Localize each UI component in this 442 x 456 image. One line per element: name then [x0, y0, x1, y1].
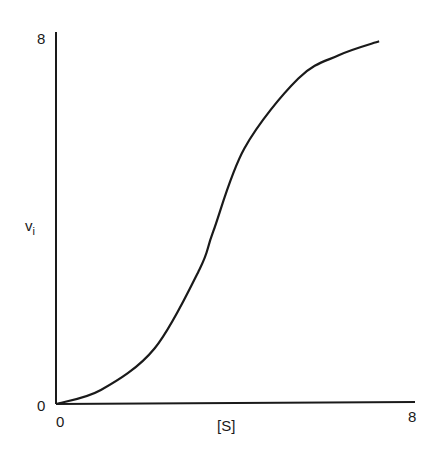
x-axis — [56, 402, 415, 404]
y-tick-bottom: 0 — [37, 398, 45, 413]
x-axis-label: [S] — [217, 418, 235, 433]
y-axis-label: vi — [25, 218, 35, 237]
x-tick-left: 0 — [56, 414, 64, 429]
sigmoid-curve — [56, 41, 379, 404]
chart-canvas — [0, 0, 442, 456]
x-tick-right: 8 — [408, 409, 416, 424]
y-tick-top: 8 — [37, 31, 45, 46]
y-axis-label-sub: i — [33, 225, 35, 237]
y-axis-label-main: v — [25, 217, 33, 234]
